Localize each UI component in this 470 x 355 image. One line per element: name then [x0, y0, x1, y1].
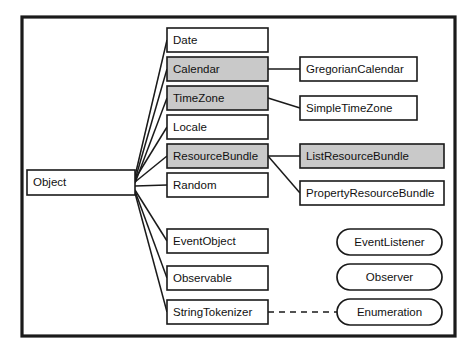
class-diagram: ObjectDateCalendarTimeZoneLocaleResource… — [0, 0, 470, 355]
node-label: EventObject — [173, 235, 236, 247]
node-label: TimeZone — [173, 92, 224, 104]
class-gregorian-calendar[interactable]: GregorianCalendar — [300, 57, 417, 81]
class-property-resource-bundle[interactable]: PropertyResourceBundle — [300, 181, 444, 205]
class-locale[interactable]: Locale — [167, 115, 268, 139]
node-label: Object — [33, 176, 67, 188]
node-label: PropertyResourceBundle — [306, 187, 435, 199]
node-label: Date — [173, 34, 197, 46]
node-label: EventListener — [354, 236, 424, 248]
node-label: Observable — [173, 272, 232, 284]
diagram-canvas: ObjectDateCalendarTimeZoneLocaleResource… — [0, 0, 470, 355]
interface-observer[interactable]: Observer — [337, 264, 442, 290]
class-string-tokenizer[interactable]: StringTokenizer — [167, 300, 268, 324]
class-time-zone[interactable]: TimeZone — [167, 86, 268, 110]
node-label: StringTokenizer — [173, 306, 252, 318]
node-label: Locale — [173, 121, 207, 133]
class-event-object[interactable]: EventObject — [167, 229, 268, 253]
class-simple-time-zone[interactable]: SimpleTimeZone — [300, 96, 417, 120]
class-resource-bundle[interactable]: ResourceBundle — [167, 144, 268, 168]
class-object[interactable]: Object — [27, 170, 135, 195]
node-label: Calendar — [173, 63, 220, 75]
class-calendar[interactable]: Calendar — [167, 57, 268, 81]
node-label: SimpleTimeZone — [306, 102, 393, 114]
node-label: GregorianCalendar — [306, 63, 404, 75]
interface-event-listener[interactable]: EventListener — [337, 229, 442, 255]
node-label: Observer — [366, 271, 413, 283]
class-date[interactable]: Date — [167, 28, 268, 52]
node-label: Random — [173, 179, 216, 191]
node-label: Enumeration — [357, 306, 422, 318]
class-list-resource-bundle[interactable]: ListResourceBundle — [300, 144, 444, 168]
edge-object-to-random — [135, 185, 167, 186]
node-label: ResourceBundle — [173, 150, 258, 162]
interface-enumeration[interactable]: Enumeration — [337, 299, 442, 325]
node-label: ListResourceBundle — [306, 150, 409, 162]
class-observable[interactable]: Observable — [167, 266, 268, 290]
class-random[interactable]: Random — [167, 173, 268, 197]
